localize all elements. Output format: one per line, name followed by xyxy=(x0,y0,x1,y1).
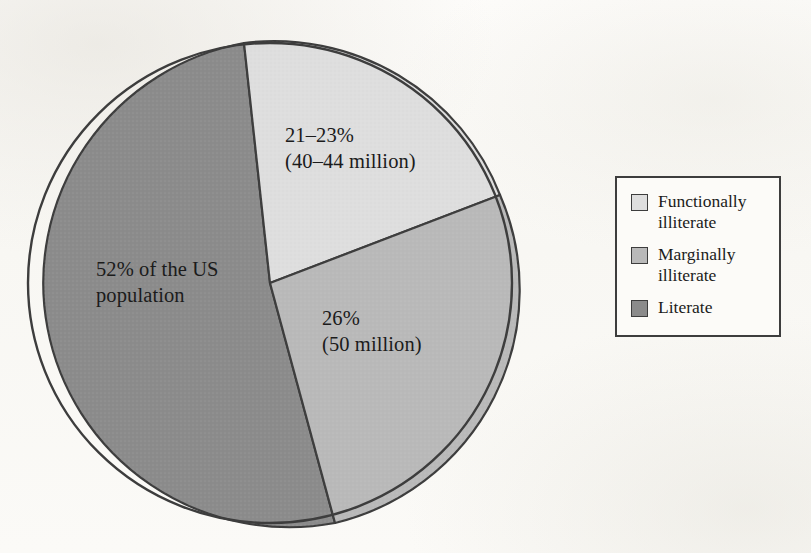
legend-swatch-functionally-illiterate xyxy=(631,194,648,211)
legend-label-functionally-illiterate-line2: illiterate xyxy=(658,212,716,232)
legend-label-functionally-illiterate-line1: Functionally xyxy=(658,191,746,211)
pie-label-marginally-illiterate-percent: 26% xyxy=(322,305,422,331)
legend-item-marginally-illiterate[interactable]: Marginally illiterate xyxy=(631,244,779,286)
chart-legend: Functionally illiterate Marginally illit… xyxy=(615,176,781,337)
pie-label-functionally-illiterate: 21–23% (40–44 million) xyxy=(285,122,416,174)
pie-label-functionally-illiterate-percent: 21–23% xyxy=(285,122,416,148)
pie-label-marginally-illiterate-count: (50 million) xyxy=(322,331,422,357)
legend-swatch-literate xyxy=(631,300,648,317)
pie-label-literate-line1: 52% of the US xyxy=(96,256,219,282)
legend-item-functionally-illiterate[interactable]: Functionally illiterate xyxy=(631,191,779,233)
legend-label-literate-line1: Literate xyxy=(658,297,712,317)
legend-item-literate[interactable]: Literate xyxy=(631,297,779,318)
legend-label-literate: Literate xyxy=(658,297,712,318)
pie-label-functionally-illiterate-count: (40–44 million) xyxy=(285,148,416,174)
legend-swatch-marginally-illiterate xyxy=(631,247,648,264)
pie-label-literate-line2: population xyxy=(96,282,219,308)
pie-chart-figure: 21–23% (40–44 million) 52% of the US pop… xyxy=(0,0,811,553)
legend-label-functionally-illiterate: Functionally illiterate xyxy=(658,191,746,233)
pie-label-literate: 52% of the US population xyxy=(96,256,219,308)
legend-label-marginally-illiterate-line1: Marginally xyxy=(658,244,735,264)
pie-label-marginally-illiterate: 26% (50 million) xyxy=(322,305,422,357)
legend-label-marginally-illiterate: Marginally illiterate xyxy=(658,244,735,286)
legend-label-marginally-illiterate-line2: illiterate xyxy=(658,265,716,285)
